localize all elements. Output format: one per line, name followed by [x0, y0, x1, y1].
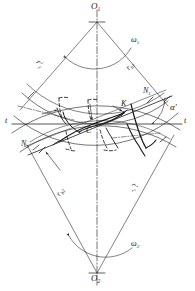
label-tangent-left: t: [5, 117, 7, 125]
gear-tooth-tip-left: [53, 141, 60, 145]
label-k: K: [121, 100, 126, 108]
diagram-canvas: [0, 0, 195, 291]
label-omega2: ω2: [131, 240, 139, 248]
label-pressure-angle: α′: [170, 103, 177, 112]
label-o2: O2: [91, 274, 100, 283]
label-o1: O1: [91, 2, 100, 11]
pinion-tooth-profile-right-outer: [131, 104, 146, 148]
gear-meshing-diagram: O1 O2 ω1 ω2 r′1 rb1 rb2 r′2 t t N1 N2 K …: [0, 0, 195, 291]
label-c: C: [86, 127, 91, 135]
label-tangent-right: t: [184, 117, 186, 125]
leader-arrow-n2: [46, 152, 60, 170]
line-of-action: [28, 96, 172, 155]
label-n1: N1: [143, 87, 151, 95]
omega1-arc: [66, 48, 131, 69]
pinion-tooth-tip-right: [146, 140, 156, 148]
label-omega1: ω1: [131, 36, 139, 44]
construction-dashed-upper-mid: [88, 99, 98, 120]
label-n2: N2: [21, 140, 29, 148]
